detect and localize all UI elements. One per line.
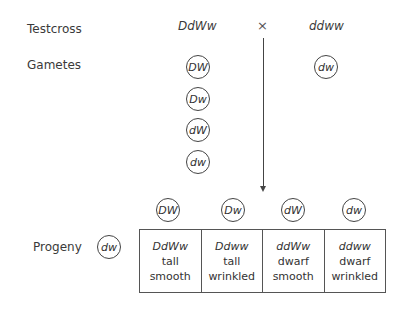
cell-seed: smooth <box>273 269 314 284</box>
cell-height: tall <box>223 254 240 269</box>
cell-genotype: ddww <box>339 239 371 254</box>
cell-height: dwarf <box>278 254 309 269</box>
progeny-cell: ddww dwarf wrinkled <box>325 230 386 292</box>
cross-arrow-line <box>263 38 264 188</box>
progeny-cell: DdWw tall smooth <box>140 230 202 292</box>
gametes-label: Gametes <box>27 58 81 72</box>
parent-right-genotype: ddww <box>309 19 344 33</box>
cell-seed: smooth <box>150 269 191 284</box>
gamete-left-1: DW <box>186 55 210 79</box>
cell-height: dwarf <box>339 254 370 269</box>
progeny-cell: ddWw dwarf smooth <box>263 230 325 292</box>
gamete-left-2: Dw <box>186 87 210 111</box>
testcross-label: Testcross <box>27 22 82 36</box>
progeny-table: DdWw tall smooth Ddww tall wrinkled ddWw… <box>139 229 386 293</box>
progeny-row-gamete: dw <box>97 235 121 259</box>
parent-left-genotype: DdWw <box>178 19 217 33</box>
progeny-cell: Ddww tall wrinkled <box>202 230 264 292</box>
gamete-right-1: dw <box>314 55 338 79</box>
cell-seed: wrinkled <box>208 269 255 284</box>
progeny-col-gamete-2: Dw <box>221 198 245 222</box>
cell-genotype: Ddww <box>215 239 248 254</box>
cell-seed: wrinkled <box>331 269 378 284</box>
cell-genotype: ddWw <box>276 239 310 254</box>
arrow-down-icon <box>260 186 266 192</box>
progeny-col-gamete-1: DW <box>156 198 180 222</box>
cell-genotype: DdWw <box>153 239 188 254</box>
progeny-label: Progeny <box>33 240 82 254</box>
cross-symbol: × <box>257 18 268 33</box>
gamete-left-4: dw <box>186 150 210 174</box>
progeny-col-gamete-4: dw <box>342 198 366 222</box>
gamete-left-3: dW <box>186 118 210 142</box>
cell-height: tall <box>162 254 179 269</box>
progeny-col-gamete-3: dW <box>281 198 305 222</box>
